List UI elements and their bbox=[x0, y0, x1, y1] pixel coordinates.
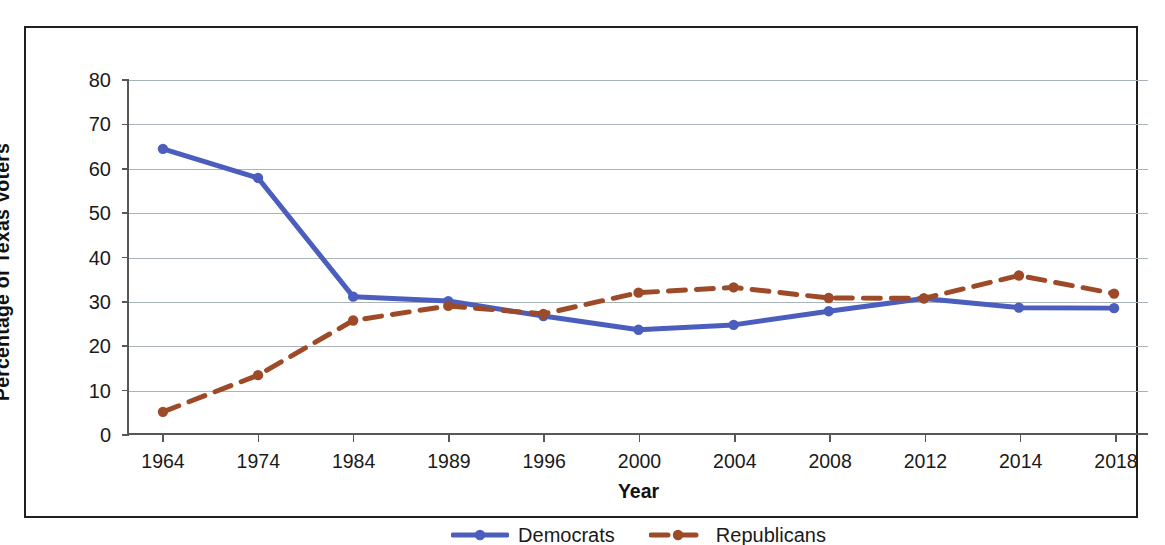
y-tick-mark bbox=[122, 168, 129, 170]
series-republicans bbox=[158, 270, 1120, 417]
y-tick-mark bbox=[122, 212, 129, 214]
y-tick-label: 10 bbox=[51, 381, 111, 401]
data-point bbox=[1109, 288, 1119, 298]
y-tick-label: 40 bbox=[51, 248, 111, 268]
x-axis-title: Year bbox=[129, 480, 1148, 503]
gridline bbox=[129, 169, 1148, 170]
x-tick-mark bbox=[1115, 433, 1117, 442]
y-tick-mark bbox=[122, 301, 129, 303]
series-democrats bbox=[158, 144, 1120, 335]
x-tick-mark bbox=[162, 433, 164, 442]
x-tick-mark bbox=[925, 433, 927, 442]
y-tick-label: 80 bbox=[51, 70, 111, 90]
y-tick-mark bbox=[122, 124, 129, 126]
x-tick-label: 1974 bbox=[213, 452, 303, 472]
y-tick-label: 20 bbox=[51, 336, 111, 356]
data-point bbox=[728, 282, 738, 292]
y-tick-mark bbox=[122, 257, 129, 259]
x-tick-mark bbox=[829, 433, 831, 442]
data-point bbox=[253, 370, 263, 380]
x-tick-mark bbox=[1020, 433, 1022, 442]
y-tick-label: 50 bbox=[51, 203, 111, 223]
gridline bbox=[129, 346, 1148, 347]
x-tick-label: 1996 bbox=[499, 452, 589, 472]
x-tick-label: 1984 bbox=[309, 452, 399, 472]
y-tick-label: 0 bbox=[51, 425, 111, 445]
data-point bbox=[824, 306, 834, 316]
legend-label: Democrats bbox=[518, 525, 615, 545]
y-tick-mark bbox=[122, 345, 129, 347]
series-layer bbox=[129, 80, 1148, 433]
gridline bbox=[129, 391, 1148, 392]
x-tick-label: 2014 bbox=[976, 452, 1066, 472]
x-tick-mark bbox=[543, 433, 545, 442]
y-tick-mark bbox=[122, 434, 129, 436]
data-point bbox=[348, 291, 358, 301]
data-point bbox=[1109, 303, 1119, 313]
gridline bbox=[129, 302, 1148, 303]
y-axis-title: Percentage of Texas Voters bbox=[0, 143, 14, 401]
legend-item-republicans[interactable]: Republicans bbox=[649, 525, 826, 545]
data-point bbox=[348, 315, 358, 325]
figure-border: Percentage of Texas Voters 0102030405060… bbox=[24, 26, 1138, 518]
legend-item-democrats[interactable]: Democrats bbox=[451, 525, 615, 545]
gridline bbox=[129, 80, 1148, 81]
data-point bbox=[1014, 303, 1024, 313]
x-tick-label: 2000 bbox=[595, 452, 685, 472]
x-tick-mark bbox=[639, 433, 641, 442]
data-point bbox=[538, 311, 548, 321]
legend-swatch-icon bbox=[649, 527, 707, 543]
plot-area: 01020304050607080 1964197419841989199620… bbox=[127, 80, 1148, 435]
chart-figure: Percentage of Texas Voters 0102030405060… bbox=[0, 0, 1165, 545]
data-point bbox=[633, 325, 643, 335]
data-point bbox=[158, 407, 168, 417]
x-tick-label: 2012 bbox=[880, 452, 970, 472]
x-tick-mark bbox=[448, 433, 450, 442]
gridline bbox=[129, 258, 1148, 259]
x-tick-label: 1964 bbox=[118, 452, 208, 472]
data-point bbox=[538, 309, 548, 319]
x-tick-label: 2008 bbox=[785, 452, 875, 472]
y-tick-label: 30 bbox=[51, 292, 111, 312]
x-tick-mark bbox=[353, 433, 355, 442]
data-point bbox=[728, 320, 738, 330]
x-tick-label: 2004 bbox=[690, 452, 780, 472]
data-point bbox=[633, 288, 643, 298]
x-tick-label: 1989 bbox=[404, 452, 494, 472]
data-point bbox=[1014, 270, 1024, 280]
x-tick-mark bbox=[258, 433, 260, 442]
y-tick-mark bbox=[122, 79, 129, 81]
legend-label: Republicans bbox=[716, 525, 826, 545]
y-tick-label: 60 bbox=[51, 159, 111, 179]
gridline bbox=[129, 124, 1148, 125]
gridline bbox=[129, 213, 1148, 214]
x-tick-mark bbox=[734, 433, 736, 442]
y-tick-mark bbox=[122, 390, 129, 392]
data-point bbox=[158, 144, 168, 154]
y-tick-label: 70 bbox=[51, 114, 111, 134]
x-tick-label: 2018 bbox=[1071, 452, 1161, 472]
chart-legend: DemocratsRepublicans bbox=[129, 525, 1148, 545]
data-point bbox=[253, 173, 263, 183]
legend-swatch-icon bbox=[451, 527, 509, 543]
